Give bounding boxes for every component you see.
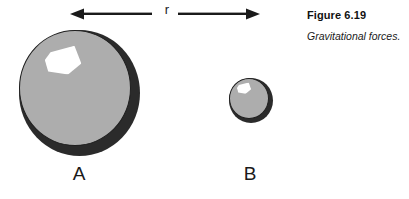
arrowhead-left-icon [70,9,84,20]
arrow-shaft-left [83,13,152,15]
distance-label-r: r [158,2,176,18]
figure-caption-title: Figure 6.19 [307,8,407,22]
sphere-b-label: B [238,163,262,185]
sphere-a-label: A [67,163,91,185]
figure-caption: Figure 6.19 Gravitational forces. [307,8,407,43]
figure-caption-text: Gravitational forces. [307,30,407,43]
sphere-a [19,30,140,156]
gravitational-forces-figure: r A B Figure 6.19 Gravitational forces. [0,0,409,199]
sphere-b [229,78,273,123]
arrowhead-right-icon [246,9,260,20]
arrow-shaft-right [178,13,247,15]
